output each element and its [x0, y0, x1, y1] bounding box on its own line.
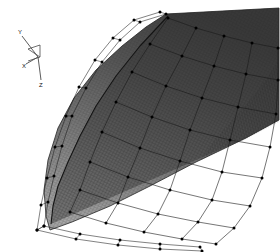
control-point-node — [117, 202, 120, 205]
control-point-node — [251, 42, 254, 45]
axis-label-x: X — [22, 63, 26, 69]
control-point-node — [79, 189, 82, 192]
control-point-node — [61, 145, 64, 148]
control-point-node — [40, 204, 43, 207]
control-point-node — [79, 233, 82, 236]
control-point-node — [149, 43, 152, 46]
control-point-node — [201, 97, 204, 100]
control-point-node — [46, 177, 49, 180]
control-point-node — [275, 113, 278, 116]
control-point-node — [167, 17, 170, 20]
control-point-node — [131, 71, 134, 74]
control-point-node — [189, 129, 192, 132]
control-point-node — [85, 87, 88, 90]
control-point-node — [36, 229, 39, 232]
control-point-node — [54, 146, 57, 149]
control-point-node — [43, 225, 46, 228]
control-point-node — [249, 205, 252, 208]
control-point-node — [181, 238, 184, 241]
control-point-node — [71, 115, 74, 118]
control-point-node — [133, 19, 136, 22]
control-point-node — [89, 161, 92, 164]
control-point-node — [119, 39, 122, 42]
control-point-node — [117, 244, 120, 247]
control-point-node — [157, 213, 160, 216]
control-point-node — [115, 101, 118, 104]
control-point-node — [261, 177, 264, 180]
control-point-node — [127, 176, 130, 179]
control-point-node — [159, 243, 162, 246]
control-point-node — [215, 243, 218, 246]
control-point-node — [269, 146, 272, 149]
control-point-node — [223, 35, 226, 38]
control-point-node — [69, 211, 72, 214]
control-point-node — [101, 61, 104, 64]
control-point-node — [53, 175, 56, 178]
control-point-node — [159, 11, 162, 14]
control-point-node — [233, 227, 236, 230]
control-point-node — [179, 160, 182, 163]
control-point-node — [221, 171, 224, 174]
control-point-node — [119, 239, 122, 242]
control-point-node — [65, 115, 68, 118]
hull-mesh-scene: Y X Z — [0, 0, 280, 252]
control-point-node — [47, 201, 50, 204]
control-point-node — [139, 147, 142, 150]
control-point-node — [101, 131, 104, 134]
control-point-node — [181, 55, 184, 58]
control-point-node — [78, 86, 81, 89]
axis-label-z: Z — [39, 82, 43, 88]
control-point-node — [229, 139, 232, 142]
control-point-node — [195, 27, 198, 30]
control-point-node — [199, 246, 202, 249]
control-point-node — [237, 106, 240, 109]
control-point-node — [94, 59, 97, 62]
control-point-node — [169, 189, 172, 192]
control-point-node — [165, 13, 168, 16]
control-point-node — [197, 221, 200, 224]
control-point-node — [165, 85, 168, 88]
mesh-viewport: Y X Z — [0, 0, 280, 252]
control-point-node — [75, 238, 78, 241]
control-point-node — [139, 21, 142, 24]
control-point-node — [105, 222, 108, 225]
control-point-node — [112, 37, 115, 40]
control-point-node — [277, 79, 280, 82]
control-point-node — [277, 47, 280, 50]
control-point-node — [151, 116, 154, 119]
control-point-node — [245, 73, 248, 76]
axis-label-y: Y — [18, 29, 22, 35]
control-point-node — [159, 248, 162, 251]
control-point-node — [211, 199, 214, 202]
control-point-node — [143, 231, 146, 234]
control-point-node — [213, 65, 216, 68]
